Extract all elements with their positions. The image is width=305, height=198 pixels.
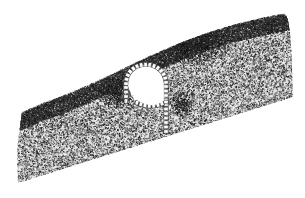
soil-tunnel-model-canvas <box>0 0 305 198</box>
model-figure: Tunnel excavation beneath a natural slop… <box>0 0 305 198</box>
